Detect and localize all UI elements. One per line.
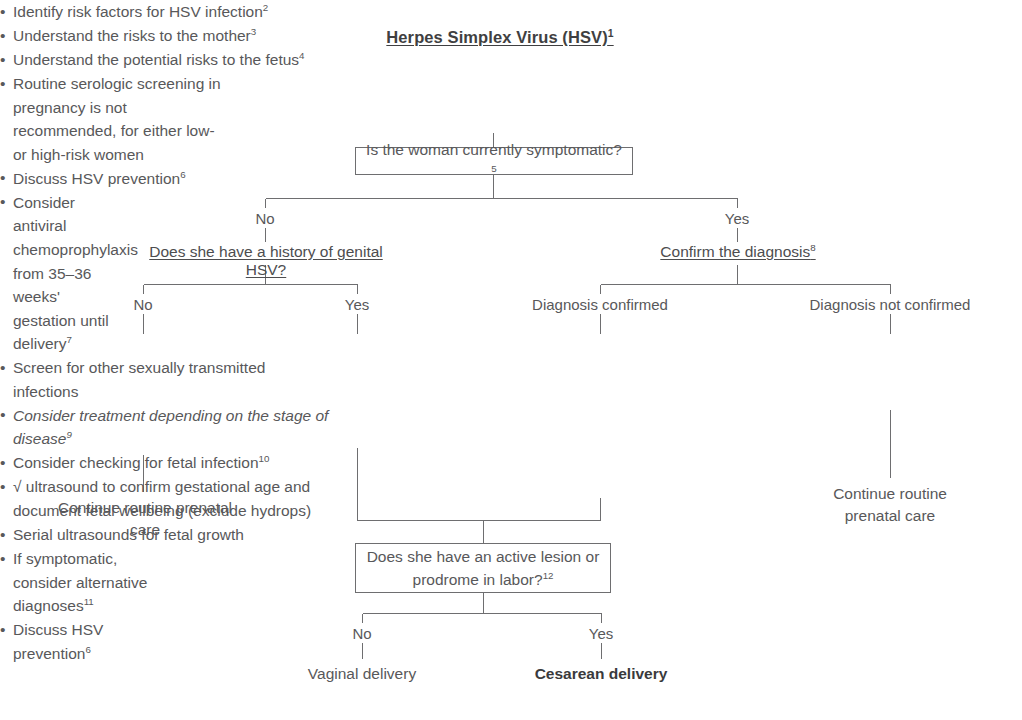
list-item: • If symptomatic, consider alternative d… [0,547,164,618]
decision-box-active-lesion-label: Does she have an active lesion or prodro… [367,548,600,588]
bullet-icon: • [0,547,5,571]
list-item-note: 7 [66,334,71,345]
list-item: • Understand the risks to the mother3 [0,24,370,48]
heading-history-genital-hsv-label: Does she have a history of genital HSV? [149,243,383,278]
branch-label-lesion-no: No [322,625,402,642]
list-item: • Consider treatment depending on the st… [0,404,330,451]
actions-list-diagnosis-not-confirmed: • If symptomatic, consider alternative d… [0,547,164,665]
flowchart-canvas: Herpes Simplex Virus (HSV)1 • Identify r… [0,0,1022,720]
page-title-note: 1 [608,28,614,39]
decision-box-active-lesion-note: 12 [543,570,554,581]
list-item-label: √ ultrasound to confirm gestational age … [13,478,311,519]
outcome-vaginal-delivery: Vaginal delivery [290,663,434,685]
bullet-icon: • [0,72,5,96]
actions-list-diagnosis-confirmed: • Screen for other sexually transmitted … [0,356,330,546]
list-item-label: Understand the risks to the mother [13,27,251,44]
branch-label-symptomatic-no: No [225,210,305,227]
list-item-note: 9 [66,429,71,440]
list-item-label: Screen for other sexually transmitted in… [13,359,265,400]
decision-box-symptomatic: Is the woman currently symptomatic?5 [355,147,633,175]
bullet-icon: • [0,475,5,499]
bullet-icon: • [0,356,5,380]
list-item-note: 6 [85,644,90,655]
heading-confirm-diagnosis: Confirm the diagnosis8 [651,243,825,261]
objectives-list: • Identify risk factors for HSV infectio… [0,0,370,72]
list-item: • Discuss HSV prevention6 [0,618,164,665]
list-item-label: Discuss HSV prevention [13,621,103,662]
bullet-icon: • [0,190,5,214]
list-item-label: Routine serologic screening in pregnancy… [13,75,221,163]
outcome-cesarean-delivery: Cesarean delivery [527,663,675,685]
list-item: • Routine serologic screening in pregnan… [0,72,232,166]
list-item-note: 6 [180,169,185,180]
bullet-icon: • [0,48,5,72]
list-item-label: Understand the potential risks to the fe… [13,51,299,68]
list-item-note: 10 [259,453,270,464]
list-item-label: Consider antiviral chemoprophylaxis from… [13,194,138,352]
list-item: • Serial ultrasounds for fetal growth [0,523,330,547]
actions-list-has-history: • Consider antiviral chemoprophylaxis fr… [0,191,122,356]
list-item: • Consider checking for fetal infection1… [0,451,330,475]
actions-list-no-history: • Routine serologic screening in pregnan… [0,72,232,190]
bullet-icon: • [0,166,5,190]
decision-box-symptomatic-label: Is the woman currently symptomatic? [366,141,622,158]
list-item-note: 4 [299,50,304,61]
list-item-label: If symptomatic, consider alternative dia… [13,550,147,614]
bullet-icon: • [0,0,5,23]
list-item: • √ ultrasound to confirm gestational ag… [0,475,330,522]
bullet-icon: • [0,618,5,642]
heading-confirm-diagnosis-label: Confirm the diagnosis [660,243,810,260]
list-item: • Discuss HSV prevention6 [0,167,232,191]
branch-label-lesion-yes: Yes [561,625,641,642]
branch-label-history-yes: Yes [317,296,397,313]
list-item: • Identify risk factors for HSV infectio… [0,0,370,24]
bullet-icon: • [0,24,5,48]
page-title-text: Herpes Simplex Virus (HSV) [386,28,607,46]
bullet-icon: • [0,523,5,547]
heading-confirm-diagnosis-note: 8 [810,242,815,253]
bullet-icon: • [0,451,5,475]
list-item-label: Consider checking for fetal infection [13,454,259,471]
list-item-note: 11 [84,596,94,607]
list-item: • Consider antiviral chemoprophylaxis fr… [0,191,122,356]
branch-label-diagnosis-confirmed: Diagnosis confirmed [528,296,672,313]
bullet-icon: • [0,403,5,427]
decision-box-active-lesion: Does she have an active lesion or prodro… [355,543,611,593]
list-item: • Understand the potential risks to the … [0,48,370,72]
heading-history-genital-hsv: Does she have a history of genital HSV? [135,243,397,279]
list-item-note: 2 [263,2,268,13]
list-item: • Screen for other sexually transmitted … [0,356,330,403]
branch-label-diagnosis-not-confirmed: Diagnosis not confirmed [808,296,972,313]
list-item-label: Serial ultrasounds for fetal growth [13,526,244,543]
branch-label-symptomatic-yes: Yes [697,210,777,227]
list-item-label: Identify risk factors for HSV infection [13,3,263,20]
list-item-label: Discuss HSV prevention [13,170,180,187]
list-item-note: 3 [251,26,256,37]
decision-box-symptomatic-note: 5 [491,163,496,174]
list-item-label: Consider treatment depending on the stag… [13,407,328,448]
outcome-continue-prenatal-care-right: Continue routine prenatal care [806,483,974,528]
